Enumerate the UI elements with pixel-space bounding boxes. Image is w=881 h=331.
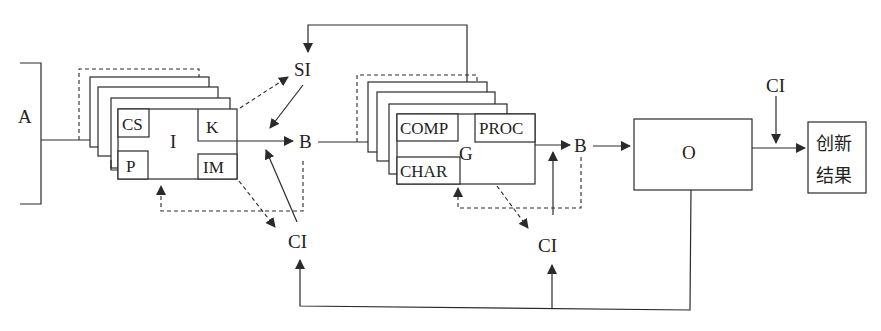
input-label: A	[18, 106, 32, 127]
node-ci1: CI	[288, 231, 307, 252]
block2-stack: COMP CHAR PROC G	[357, 75, 535, 184]
dashed-arrow-im-to-ci	[239, 181, 275, 227]
node-ci2: CI	[538, 235, 557, 256]
result-box-line1: 创新	[816, 133, 852, 154]
dashed-arrow-block1-to-si	[240, 77, 288, 108]
block2-center-label: G	[459, 143, 473, 164]
arrow-si-to-b	[270, 85, 303, 128]
cell-proc-label: PROC	[479, 119, 523, 138]
cell-char-label: CHAR	[400, 162, 448, 181]
cell-cs-label: CS	[122, 115, 143, 134]
node-ci3: CI	[766, 75, 785, 96]
output-box-label: O	[682, 142, 696, 163]
node-b2: B	[574, 135, 587, 156]
node-b1: B	[299, 131, 312, 152]
cell-p-label: P	[126, 157, 135, 176]
cell-k-label: K	[206, 118, 219, 137]
input-bracket-a: A	[18, 63, 41, 204]
block1-stack: CS P K IM I	[79, 69, 237, 179]
innovation-process-diagram: A CS P K IM I SI B CI	[0, 0, 881, 331]
dashed-arrow-block2-to-ci2	[497, 186, 528, 228]
cell-comp-label: COMP	[400, 119, 448, 138]
result-box-line2: 结果	[816, 165, 852, 186]
node-si: SI	[294, 59, 311, 80]
block1-center-label: I	[170, 131, 176, 152]
cell-im-label: IM	[203, 158, 224, 177]
